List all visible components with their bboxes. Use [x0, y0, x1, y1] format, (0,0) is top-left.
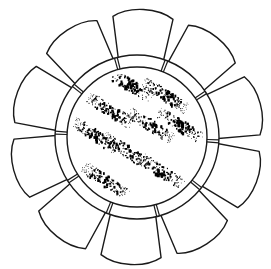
flower-drawing — [0, 0, 271, 269]
flower-cell-illustration — [0, 0, 271, 269]
ring-mark — [207, 142, 219, 143]
ring-mark — [55, 131, 67, 132]
